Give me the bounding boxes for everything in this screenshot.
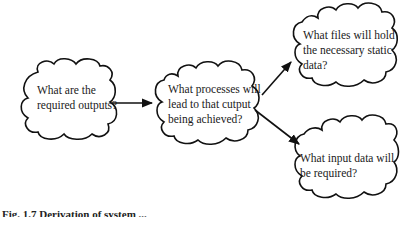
label-line: What processes will [168, 82, 261, 97]
node-processes-label: What processes will lead to that cutput … [168, 82, 261, 127]
label-line: What are the [37, 83, 117, 98]
arrow-processes-to-inputs [255, 110, 299, 144]
label-line: What input data will [300, 151, 394, 166]
node-files-label: What files will hold the necessary stati… [303, 28, 395, 73]
label-line: be required? [300, 166, 394, 181]
label-line: data? [303, 58, 395, 73]
label-line: required outputs? [37, 98, 117, 113]
node-outputs-label: What are the required outputs? [37, 83, 117, 113]
node-inputs-label: What input data will be required? [300, 151, 394, 181]
arrow-processes-to-files [262, 62, 291, 95]
label-line: What files will hold [303, 28, 395, 43]
label-line: lead to that cutput [168, 97, 261, 112]
label-line: the necessary static [303, 43, 395, 58]
label-line: being achieved? [168, 112, 261, 127]
figure-caption: Fig. 1.7 Derivation of system ... [2, 208, 147, 217]
